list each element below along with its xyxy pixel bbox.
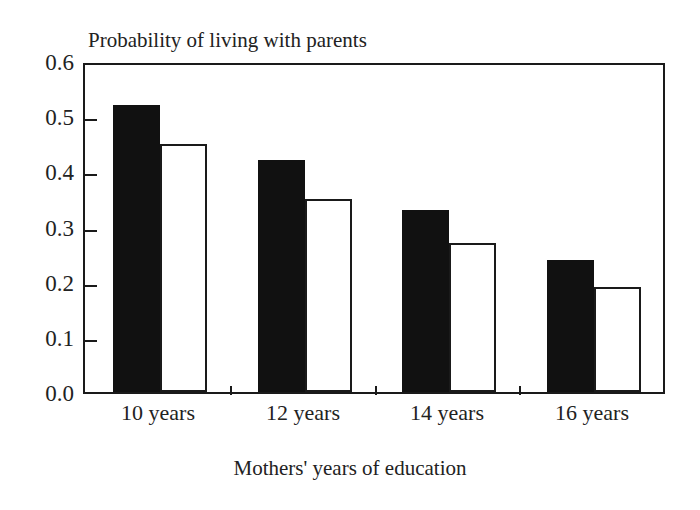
y-tick-label: 0.5 (22, 106, 74, 129)
y-tick-mark (85, 119, 97, 121)
x-group-label: 16 years (542, 400, 642, 426)
plot-area (83, 63, 665, 394)
chart-page: Probability of living with parents 0.60.… (0, 0, 700, 510)
x-separator-tick (230, 386, 232, 395)
y-tick-label: 0.4 (22, 161, 74, 184)
bar-dark-1 (258, 160, 305, 392)
bar-dark-0 (113, 105, 160, 392)
x-group-label: 10 years (108, 400, 208, 426)
y-tick-label: 0.2 (22, 272, 74, 295)
x-axis-title: Mothers' years of education (0, 455, 700, 481)
y-tick-mark (85, 174, 97, 176)
y-tick-label: 0.1 (22, 327, 74, 350)
y-tick-label: 0.0 (22, 382, 74, 405)
y-tick-label: 0.6 (22, 51, 74, 74)
y-tick-mark (85, 230, 97, 232)
y-tick-mark (85, 340, 97, 342)
x-group-label: 12 years (253, 400, 353, 426)
bar-dark-3 (547, 260, 594, 392)
y-tick-label: 0.3 (22, 217, 74, 240)
bar-light-0 (160, 144, 207, 392)
x-separator-tick (519, 386, 521, 395)
x-separator-tick (375, 386, 377, 395)
chart-title: Probability of living with parents (88, 27, 367, 53)
y-axis-ticks (85, 65, 97, 396)
y-tick-mark (85, 285, 97, 287)
y-axis-labels: 0.60.50.40.30.20.10.0 (12, 63, 74, 394)
bar-dark-2 (402, 210, 449, 392)
x-group-label: 14 years (397, 400, 497, 426)
bar-light-1 (305, 199, 352, 392)
bar-light-2 (449, 243, 496, 392)
bar-light-3 (594, 287, 641, 392)
